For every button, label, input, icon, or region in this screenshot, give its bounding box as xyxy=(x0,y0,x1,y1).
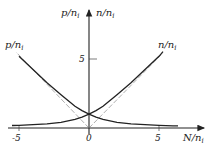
y-tick-label-5: 5 xyxy=(79,54,85,64)
curve-n xyxy=(12,52,163,126)
chart-canvas: -5 0 5 5 p/ni n/ni N/ni p/ni n/ni xyxy=(0,0,212,148)
x-tick-label-5: 5 xyxy=(155,133,161,143)
curve-label-p: p/ni xyxy=(5,39,23,52)
x-tick-label-0: 0 xyxy=(86,133,92,143)
carrier-concentration-chart: -5 0 5 5 p/ni n/ni N/ni p/ni n/ni xyxy=(0,0,212,148)
x-axis-label: N/ni xyxy=(182,132,204,145)
asymptote-n xyxy=(89,53,163,128)
y-axis-label-p: p/ni xyxy=(61,7,79,20)
x-tick-label-neg5: -5 xyxy=(12,133,21,143)
curve-p xyxy=(19,56,178,126)
curve-label-n: n/ni xyxy=(158,39,177,52)
y-axis-label-n: n/ni xyxy=(96,7,115,20)
